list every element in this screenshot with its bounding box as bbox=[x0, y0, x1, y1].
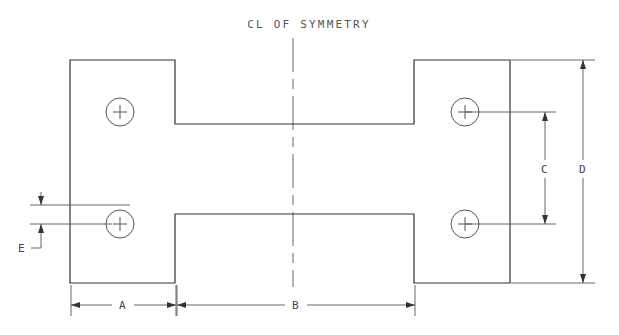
dimension-d-label: D bbox=[579, 163, 587, 176]
dimension-e-arrow-top bbox=[38, 196, 44, 205]
dimension-c-arrow-top bbox=[542, 112, 548, 121]
dimension-a: A bbox=[71, 285, 176, 316]
dimension-a-arrow-right bbox=[167, 302, 176, 308]
drawing-canvas: CL OF SYMMETRY bbox=[0, 0, 619, 335]
dimension-a-label: A bbox=[119, 299, 127, 312]
dimension-e-leader bbox=[31, 237, 41, 248]
dimension-e-arrow-bottom bbox=[38, 224, 44, 233]
dimension-b-arrow-right bbox=[406, 302, 415, 308]
part-outline bbox=[70, 60, 510, 283]
engineering-drawing: CL OF SYMMETRY bbox=[0, 0, 619, 335]
dimension-a-arrow-left bbox=[71, 302, 80, 308]
dimension-c-label: C bbox=[541, 163, 549, 176]
dimension-c-arrow-bottom bbox=[542, 215, 548, 224]
hole-top-left bbox=[106, 98, 134, 126]
dimension-e-label: E bbox=[18, 242, 26, 255]
dimension-d-arrow-bottom bbox=[580, 274, 586, 283]
dimension-d-arrow-top bbox=[580, 60, 586, 69]
dimension-b-arrow-left bbox=[177, 302, 186, 308]
part-outline-group bbox=[70, 60, 510, 283]
centerline-note-label: CL OF SYMMETRY bbox=[247, 18, 371, 31]
dimension-b-label: B bbox=[292, 299, 300, 312]
dimension-b: B bbox=[177, 285, 415, 316]
